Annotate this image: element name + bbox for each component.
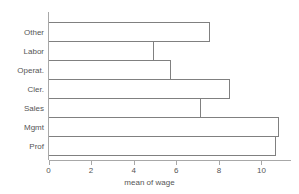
x-ticks-group bbox=[50, 161, 262, 165]
y-tick-label-labor: Labor bbox=[24, 46, 44, 55]
y-tick-label-operat: Operat. bbox=[17, 65, 44, 74]
x-tick-label-10: 10 bbox=[257, 166, 266, 175]
bar-mgmt bbox=[49, 118, 279, 137]
y-axis-labels: OtherLaborOperat.Cler.SalesMgmtProf bbox=[0, 0, 44, 194]
bar-cler bbox=[49, 80, 230, 99]
bars-group bbox=[49, 23, 279, 156]
y-tick-label-cler: Cler. bbox=[28, 84, 44, 93]
x-tick-label-6: 6 bbox=[174, 166, 178, 175]
bar-prof bbox=[49, 137, 276, 156]
bar-labor bbox=[49, 42, 154, 61]
x-tick-label-2: 2 bbox=[89, 166, 93, 175]
y-tick-label-sales: Sales bbox=[24, 103, 44, 112]
chart-canvas bbox=[0, 0, 299, 194]
bar-sales bbox=[49, 99, 201, 118]
x-tick-label-0: 0 bbox=[46, 166, 50, 175]
plot-area: OtherLaborOperat.Cler.SalesMgmtProf 0246… bbox=[0, 0, 299, 194]
y-tick-label-mgmt: Mgmt bbox=[24, 122, 44, 131]
bar-operat bbox=[49, 61, 171, 80]
bar-other bbox=[49, 23, 210, 42]
x-tick-label-8: 8 bbox=[217, 166, 221, 175]
y-tick-label-other: Other bbox=[24, 27, 44, 36]
x-tick-label-4: 4 bbox=[131, 166, 135, 175]
bar-chart: OtherLaborOperat.Cler.SalesMgmtProf 0246… bbox=[0, 0, 299, 194]
x-axis-title: mean of wage bbox=[0, 178, 299, 187]
y-tick-label-prof: Prof bbox=[29, 141, 44, 150]
